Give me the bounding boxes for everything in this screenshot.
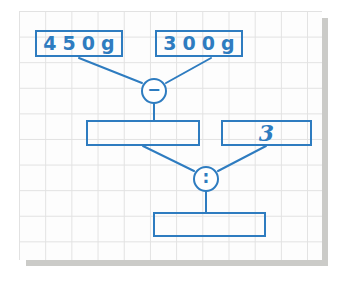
division-icon: :: [203, 169, 210, 186]
input-box-left[interactable]: 450g: [35, 30, 123, 57]
operator-minus[interactable]: −: [141, 78, 167, 104]
divisor-box[interactable]: 3: [221, 120, 312, 146]
divisor-value: 3: [259, 122, 274, 144]
final-result-box[interactable]: [153, 212, 266, 237]
input-box-right-value: 300g: [163, 34, 240, 53]
intermediate-result-box[interactable]: [86, 120, 200, 146]
input-box-right[interactable]: 300g: [155, 30, 243, 57]
operator-division[interactable]: :: [193, 166, 219, 192]
minus-icon: −: [147, 82, 160, 98]
worksheet-scene: 450g 300g − 3 :: [0, 0, 357, 283]
input-box-left-value: 450g: [43, 34, 120, 53]
